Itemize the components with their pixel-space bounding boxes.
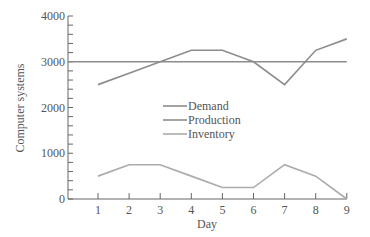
- y-tick-label: 3000: [41, 55, 65, 69]
- x-axis-title: Day: [197, 217, 217, 231]
- x-tick-label: 9: [344, 203, 350, 217]
- x-tick-label: 2: [126, 203, 132, 217]
- x-tick-label: 8: [313, 203, 319, 217]
- y-tick-label: 1000: [41, 146, 65, 160]
- line-chart: 01000200030004000123456789 DemandProduct…: [0, 0, 370, 237]
- x-tick-label: 5: [219, 203, 225, 217]
- y-axis-title: Computer systems: [13, 63, 27, 152]
- legend-label-demand: Demand: [188, 99, 229, 113]
- legend: DemandProductionInventory: [163, 99, 241, 141]
- legend-label-production: Production: [188, 113, 241, 127]
- x-tick-label: 7: [282, 203, 288, 217]
- x-tick-label: 4: [188, 203, 194, 217]
- legend-label-inventory: Inventory: [188, 127, 235, 141]
- x-tick-label: 1: [95, 203, 101, 217]
- x-tick-label: 6: [251, 203, 257, 217]
- y-tick-label: 4000: [41, 9, 65, 23]
- x-tick-label: 3: [157, 203, 163, 217]
- y-tick-label: 2000: [41, 101, 65, 115]
- y-tick-label: 0: [59, 192, 65, 206]
